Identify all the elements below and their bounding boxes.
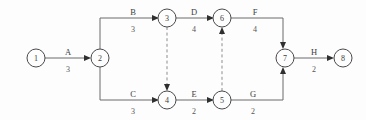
edge-C-line <box>100 67 155 100</box>
edge-F: F 4 <box>231 7 286 49</box>
edge-D: D 4 <box>176 7 214 34</box>
edge-F-arrowhead <box>280 42 286 49</box>
node-8-label: 8 <box>341 54 345 63</box>
edge-B-line <box>100 18 155 49</box>
edge-G-label: G <box>250 89 256 99</box>
edge-dummy-3-4-arrowhead <box>164 84 170 91</box>
node-7[interactable]: 7 <box>276 49 294 67</box>
edge-B-label: B <box>130 7 136 17</box>
node-1-label: 1 <box>34 54 38 63</box>
node-3-label: 3 <box>165 14 169 23</box>
edge-B: B 3 <box>100 7 159 49</box>
edge-G-line <box>231 71 283 100</box>
edge-G-duration: 2 <box>251 107 255 116</box>
node-2[interactable]: 2 <box>91 49 109 67</box>
edge-F-label: F <box>253 7 258 17</box>
node-6[interactable]: 6 <box>213 9 231 27</box>
edge-E-label: E <box>191 89 196 99</box>
edge-C-duration: 3 <box>131 107 135 116</box>
edge-C: C 3 <box>100 67 159 116</box>
edge-E-duration: 2 <box>192 107 196 116</box>
edge-dummy-5-6 <box>219 27 225 91</box>
network-diagram-canvas: A 3 B 3 C 3 D 4 E 2 <box>0 0 366 120</box>
edge-B-duration: 3 <box>131 25 135 34</box>
edge-E: E 2 <box>176 89 214 116</box>
edge-A-label: A <box>65 47 72 57</box>
edge-dummy-3-4 <box>164 27 170 91</box>
edge-dummy-5-6-arrowhead <box>219 27 225 34</box>
node-1[interactable]: 1 <box>27 49 45 67</box>
edge-H: H 2 <box>294 47 334 74</box>
node-4-label: 4 <box>165 96 169 105</box>
node-5[interactable]: 5 <box>213 91 231 109</box>
edge-A-arrowhead <box>84 55 91 61</box>
edge-H-duration: 2 <box>312 65 316 74</box>
edge-G: G 2 <box>231 67 286 116</box>
edge-C-label: C <box>130 89 136 99</box>
edge-D-label: D <box>191 7 197 17</box>
node-5-label: 5 <box>220 96 224 105</box>
edge-H-arrowhead <box>327 55 334 61</box>
node-2-label: 2 <box>98 54 102 63</box>
network-diagram: A 3 B 3 C 3 D 4 E 2 <box>0 0 366 120</box>
node-3[interactable]: 3 <box>158 9 176 27</box>
node-4[interactable]: 4 <box>158 91 176 109</box>
edge-D-duration: 4 <box>192 25 196 34</box>
edge-H-label: H <box>311 47 317 57</box>
edge-F-line <box>231 18 283 45</box>
node-6-label: 6 <box>220 14 224 23</box>
edge-G-arrowhead <box>280 67 286 74</box>
edge-A-duration: 3 <box>66 65 70 74</box>
edge-F-duration: 4 <box>253 25 257 34</box>
node-7-label: 7 <box>283 54 287 63</box>
edge-A: A 3 <box>45 47 91 74</box>
node-8[interactable]: 8 <box>334 49 352 67</box>
